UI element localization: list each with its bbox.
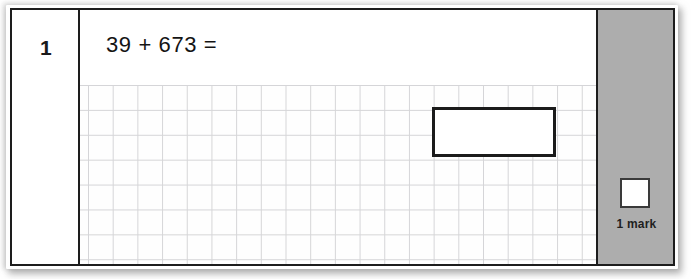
- mark-allocation-label: 1 mark: [598, 217, 675, 231]
- question-number-label: 1: [12, 36, 80, 60]
- working-area: 39 + 673 =: [80, 10, 596, 264]
- question-number-column: 1: [12, 10, 80, 264]
- answer-input-box[interactable]: [432, 107, 556, 157]
- question-frame: 1 39 + 673 = 1 mark: [10, 8, 675, 266]
- question-statement: 39 + 673 =: [80, 10, 596, 85]
- mark-tick-box[interactable]: [620, 178, 650, 208]
- question-expression: 39 + 673 =: [106, 32, 217, 58]
- marking-column: 1 mark: [596, 10, 673, 264]
- page-root: 1 39 + 673 = 1 mark: [0, 0, 692, 279]
